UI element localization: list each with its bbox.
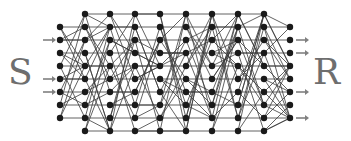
source-label: S [8, 54, 33, 90]
arrow-icon [296, 37, 309, 43]
arrow-icon [43, 76, 56, 82]
sink-label: R [313, 54, 340, 90]
arrow-icon [43, 89, 56, 95]
network-diagram [0, 0, 351, 141]
arrow-icon [296, 115, 309, 121]
edges [60, 14, 290, 131]
arrow-icon [43, 37, 56, 43]
arrow-icon [296, 89, 309, 95]
arrow-icon [296, 50, 309, 56]
